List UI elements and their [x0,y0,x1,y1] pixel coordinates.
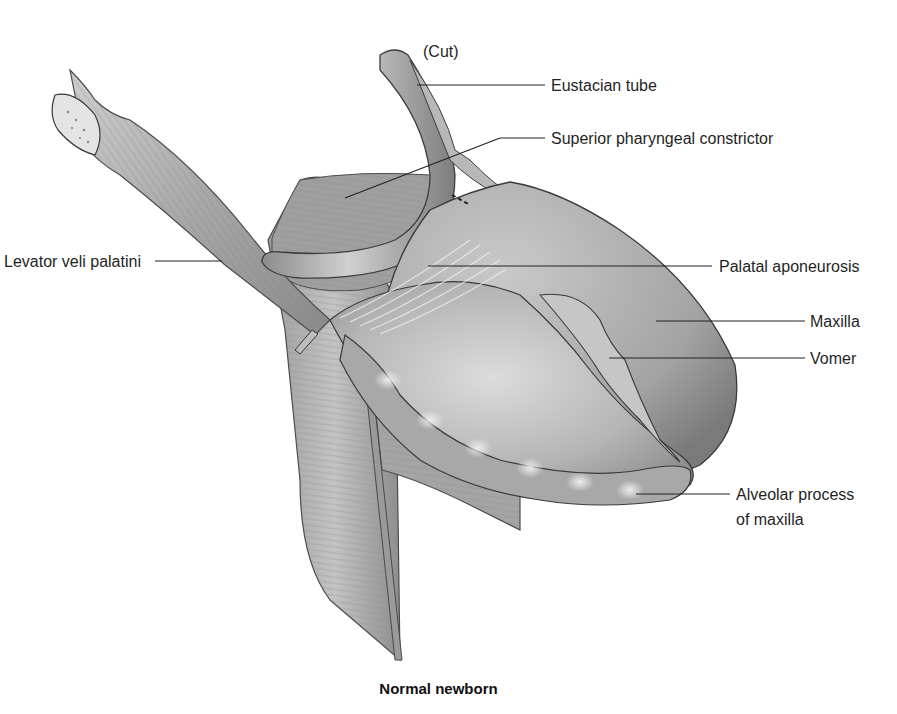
label-of-maxilla: of maxilla [736,510,804,529]
label-palatal-aponeurosis: Palatal aponeurosis [719,257,860,276]
anatomy-illustration [0,0,897,714]
label-levator-veli-palatini: Levator veli palatini [4,252,141,271]
label-maxilla: Maxilla [810,312,860,331]
label-alveolar-process: Alveolar process [736,485,854,504]
figure-caption-container: Normal newborn [0,680,897,697]
label-eustacian-tube: Eustacian tube [551,76,657,95]
label-superior-pharyngeal-constrictor: Superior pharyngeal constrictor [551,129,773,148]
figure-caption: Normal newborn [379,680,497,697]
label-vomer: Vomer [810,349,856,368]
label-cut: (Cut) [423,42,459,61]
